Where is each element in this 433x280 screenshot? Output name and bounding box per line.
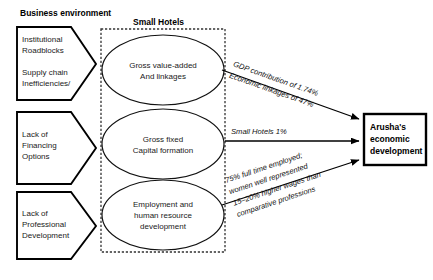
connector-label-capital: Small Hotels 1%: [231, 127, 287, 136]
driver-1-line-2: Roadblocks: [22, 46, 64, 55]
hotel-factor-ellipse-2[interactable]: [102, 109, 224, 179]
hotel-factor-3-line-1: Employment and: [133, 200, 193, 209]
driver-1-line-1: Institutional: [22, 35, 63, 44]
hotel-factor-2-line-1: Gross fixed: [143, 135, 183, 144]
driver-2-line-3: Options: [22, 152, 50, 161]
driver-3-line-2: Professional: [22, 220, 66, 229]
outcome-line-3: development: [370, 146, 423, 156]
hotel-factor-3-line-2: human resource: [134, 211, 192, 220]
outcome-line-1: Arusha's: [370, 122, 406, 132]
diagram-svg: Business environment Small Hotels Instit…: [0, 0, 433, 280]
connector-label-employment: 75% full time employed; women well repre…: [224, 147, 326, 219]
driver-1-line-5: Inefficiencies/: [22, 79, 71, 88]
hotel-factor-ellipse-1[interactable]: [102, 35, 224, 105]
driver-2-line-1: Lack of: [22, 130, 49, 139]
driver-3-line-1: Lack of: [22, 209, 49, 218]
outcome-line-2: economic: [370, 134, 410, 144]
hotel-factor-1-line-2: And linkages: [140, 72, 186, 81]
driver-1-line-4: Supply chain: [22, 68, 68, 77]
hotel-factor-1-line-1: Gross value-added: [129, 61, 197, 70]
hotel-factor-2-line-2: Capital formation: [133, 146, 193, 155]
diagram-canvas: Business environment Small Hotels Instit…: [0, 0, 433, 280]
driver-2-line-2: Financing: [22, 141, 57, 150]
header-business-environment: Business environment: [20, 8, 111, 18]
header-small-hotels: Small Hotels: [133, 17, 184, 27]
connector-label-gva: GDP contribution of 1.74% Economic linka…: [228, 60, 320, 110]
driver-3-line-3: Development: [22, 231, 70, 240]
hotel-factor-3-line-3: development: [140, 222, 187, 231]
